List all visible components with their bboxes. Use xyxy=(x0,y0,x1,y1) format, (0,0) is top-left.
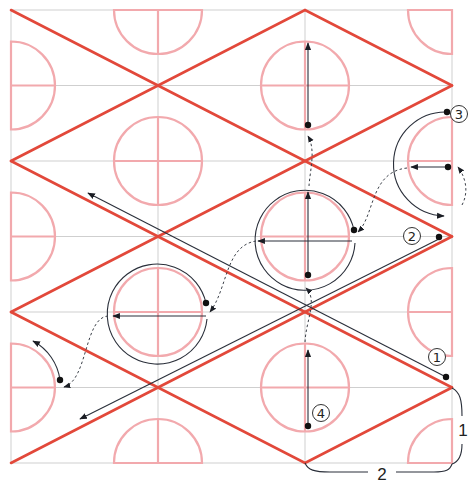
left-bottom-arc xyxy=(33,316,108,387)
svg-text:1: 1 xyxy=(458,421,467,440)
step-label-4: 4 xyxy=(313,405,330,422)
step-label-1: 1 xyxy=(429,349,446,366)
svg-text:1: 1 xyxy=(433,350,441,365)
dimension-horizontal: 2 xyxy=(305,463,452,484)
dimension-vertical: 1 xyxy=(452,388,468,464)
svg-text:3: 3 xyxy=(455,107,463,122)
step-3-arc xyxy=(358,109,466,232)
pattern-diagram: 1 2 3 4 1 2 xyxy=(0,0,476,486)
svg-text:4: 4 xyxy=(317,406,325,421)
step-label-2: 2 xyxy=(404,228,421,245)
step-label-3: 3 xyxy=(451,106,468,123)
svg-text:2: 2 xyxy=(408,229,416,244)
long-arrows xyxy=(80,193,449,419)
grid-lines xyxy=(11,10,452,463)
diagram-canvas: 1 2 3 4 1 2 xyxy=(0,0,476,486)
svg-text:2: 2 xyxy=(377,465,386,484)
